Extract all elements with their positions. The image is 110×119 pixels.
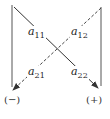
element-a22: a22 xyxy=(70,66,89,80)
element-a11: a11 xyxy=(27,26,46,40)
plus-sign-label: (+) xyxy=(86,95,102,105)
element-a21: a21 xyxy=(27,66,46,80)
element-a11-sub: 11 xyxy=(35,31,45,40)
element-a22-sub: 22 xyxy=(78,71,88,80)
element-a12-sub: 12 xyxy=(78,31,88,40)
element-a12: a12 xyxy=(70,26,89,40)
element-a21-sub: 21 xyxy=(35,71,45,80)
minus-sign-label: (−) xyxy=(4,95,20,105)
determinant-diagram: a11 a12 a21 a22 (−) (+) xyxy=(0,0,110,119)
